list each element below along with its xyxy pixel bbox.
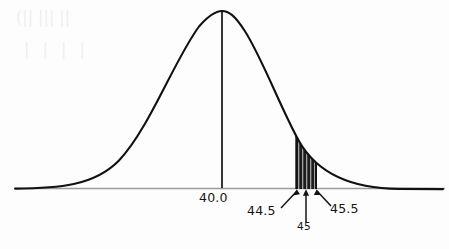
figure-container: (|| ||| || | | | | bbox=[0, 0, 449, 249]
axis-label-upper-bound: 45.5 bbox=[330, 201, 359, 216]
arrow-upper-bound bbox=[314, 189, 331, 206]
axis-label-lower-bound: 44.5 bbox=[247, 203, 276, 218]
shaded-probability-band bbox=[296, 70, 318, 189]
axis-label-midpoint: 45 bbox=[297, 220, 311, 232]
arrow-lower-bound bbox=[281, 189, 300, 208]
arrow-midpoint bbox=[303, 189, 309, 222]
normal-curve-figure bbox=[0, 0, 449, 249]
bell-curve-path bbox=[15, 11, 443, 189]
axis-label-mean: 40.0 bbox=[199, 190, 228, 205]
